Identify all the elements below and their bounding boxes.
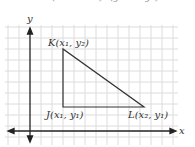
x-axis-label: x: [179, 125, 185, 136]
y-axis: [28, 28, 33, 142]
coordinate-plane: y x K(x₁, y₂) J(x₁, y₁) L(x₂, y₁): [0, 0, 195, 147]
point-l-label: L(x₂, y₁): [127, 109, 168, 120]
point-j-label: J(x₁, y₁): [44, 109, 84, 120]
grid: [5, 25, 178, 145]
y-axis-label: y: [26, 13, 33, 24]
right-triangle: [63, 49, 144, 107]
point-k-label: K(x₁, y₂): [47, 37, 89, 48]
